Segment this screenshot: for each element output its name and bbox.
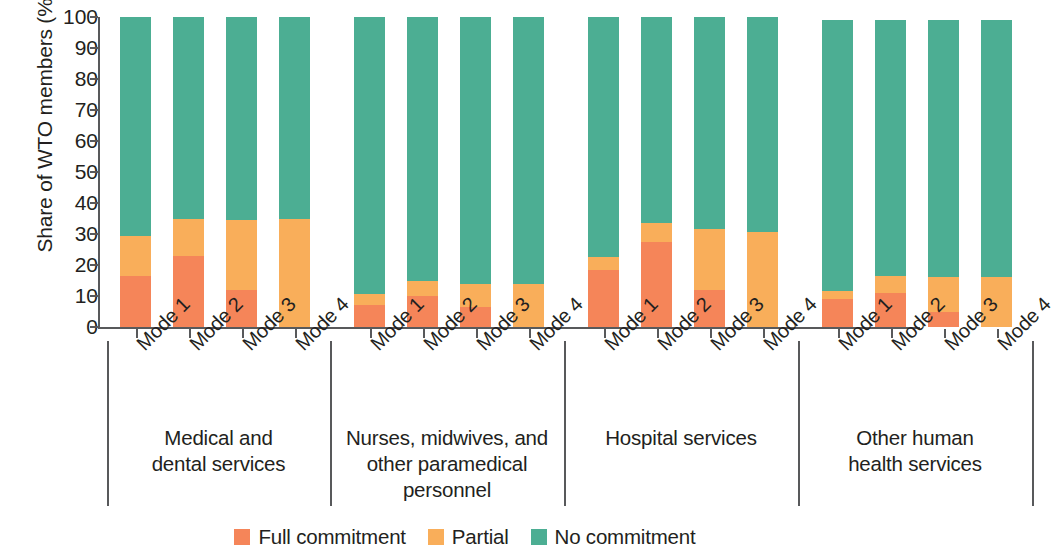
bar-segment-none [354,17,385,294]
bar-segment-partial [588,257,619,269]
bar-segment-none [407,17,438,281]
bar-stack [173,17,204,327]
bar-segment-partial [875,276,906,293]
y-axis-tick-mark [90,109,98,111]
bar-segment-partial [354,294,385,305]
y-axis-tick-label: 40 [38,191,98,215]
bar-segment-partial [822,291,853,299]
legend-item[interactable]: Partial [428,525,509,549]
legend-label: No commitment [555,525,696,549]
y-axis-tick-mark [90,16,98,18]
bar-segment-full [120,276,151,327]
y-axis-tick-label: 30 [38,222,98,246]
legend-item[interactable]: No commitment [531,525,696,549]
y-axis-tick-label: 70 [38,98,98,122]
chart-legend: Full commitmentPartialNo commitment [0,525,930,549]
group-label-line: dental services [107,451,330,477]
y-axis-tick-label: 90 [38,36,98,60]
bar-stack [875,20,906,327]
y-axis-tick-mark [90,140,98,142]
y-axis-tick-mark [90,233,98,235]
bar-stack [588,17,619,327]
bar-stack [407,17,438,327]
legend-swatch-icon [234,529,250,545]
bar-segment-none [513,17,544,284]
y-axis-tick-mark [90,295,98,297]
y-axis-tick-label: 60 [38,129,98,153]
bar-segment-none [747,17,778,232]
y-axis-tick-label: 10 [38,284,98,308]
y-axis-tick-label: 20 [38,253,98,277]
group-label-line: Medical and [107,425,330,451]
y-axis-tick-label: 0 [38,315,98,339]
bar-stack [513,17,544,327]
group-label: Medical anddental services [107,425,330,477]
group-separator [564,341,566,506]
group-label-line: personnel [330,477,564,503]
group-label-line: Nurses, midwives, and [330,425,564,451]
bar-segment-partial [226,220,257,290]
y-axis-tick-mark [90,171,98,173]
y-axis-tick-label: 100 [38,5,98,29]
bar-stack [279,17,310,327]
bar-segment-none [460,17,491,284]
legend-label: Full commitment [258,525,405,549]
bar-segment-partial [641,223,672,242]
group-separator [798,341,800,506]
plot-area: 0102030405060708090100 [108,17,920,327]
bar-segment-none [173,17,204,219]
bar-stack [354,17,385,327]
group-label-line: Hospital services [564,425,798,451]
bar-stack [981,20,1012,327]
group-label-line: Other human [798,425,1032,451]
y-axis-tick-mark [90,78,98,80]
legend-swatch-icon [428,529,444,545]
legend-item[interactable]: Full commitment [234,525,405,549]
legend-label: Partial [452,525,509,549]
group-label: Hospital services [564,425,798,451]
bar-segment-partial [173,219,204,256]
bar-stack [226,17,257,327]
group-label: Nurses, midwives, andother paramedicalpe… [330,425,564,503]
group-label: Other humanhealth services [798,425,1032,477]
y-axis-tick-mark [90,326,98,328]
bar-segment-none [588,17,619,257]
bar-segment-partial [694,229,725,289]
bar-stack [747,17,778,327]
bar-segment-full [588,270,619,327]
group-separator [107,341,109,506]
y-axis-tick-label: 80 [38,67,98,91]
bar-stack [460,17,491,327]
y-axis-tick-mark [90,202,98,204]
bar-stack [928,20,959,327]
bar-segment-none [279,17,310,219]
bar-segment-none [694,17,725,229]
y-axis-tick-mark [90,47,98,49]
bar-segment-none [226,17,257,220]
group-separator [1032,341,1034,506]
bar-segment-partial [120,236,151,276]
bar-segment-none [981,20,1012,277]
bar-segment-none [822,20,853,291]
bars-layer [108,17,920,327]
group-label-line: health services [798,451,1032,477]
y-axis-tick-label: 50 [38,160,98,184]
bar-stack [694,17,725,327]
bar-stack [120,17,151,327]
bar-segment-none [928,20,959,277]
y-axis-tick-mark [90,264,98,266]
bar-segment-none [120,17,151,236]
bar-segment-none [641,17,672,223]
bar-segment-none [875,20,906,276]
y-axis-line [98,17,100,327]
bar-stack [822,20,853,327]
group-label-line: other paramedical [330,451,564,477]
legend-swatch-icon [531,529,547,545]
bar-stack [641,17,672,327]
